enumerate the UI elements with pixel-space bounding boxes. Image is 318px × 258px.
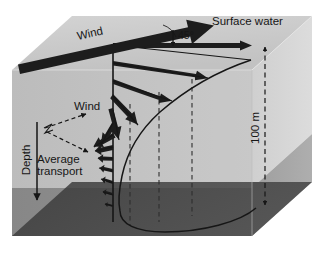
label-depth: Depth: [20, 145, 32, 176]
label-surface-water: Surface water: [212, 15, 283, 27]
ekman-diagram-canvas: Surface water Wind 45° Wind Average tran…: [0, 0, 318, 258]
ocean-box: [12, 16, 312, 236]
label-wind-legend: Wind: [74, 100, 100, 112]
label-average-transport-line2: transport: [37, 165, 83, 177]
label-average-transport-line1: Average: [37, 153, 80, 165]
ekman-spiral-figure: Surface water Wind 45° Wind Average tran…: [0, 0, 318, 258]
label-angle-45: 45°: [178, 29, 194, 41]
label-depth-scale-100m: 100 m: [249, 112, 261, 144]
